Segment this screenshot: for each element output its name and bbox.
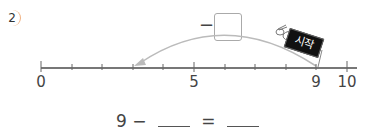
equation-equals: =: [201, 111, 215, 131]
result-blank[interactable]: [227, 110, 259, 127]
tick-label-10: 10: [337, 73, 356, 91]
arrow-head-icon: [134, 58, 146, 66]
subtrahend-blank[interactable]: [158, 110, 190, 127]
equation: 9 − =: [0, 110, 381, 131]
tick-label-5: 5: [189, 73, 199, 91]
equation-op: −: [132, 111, 146, 131]
equation-start: 9: [116, 111, 127, 131]
tick-label-0: 0: [36, 73, 46, 91]
tick-label-9: 9: [311, 73, 321, 91]
